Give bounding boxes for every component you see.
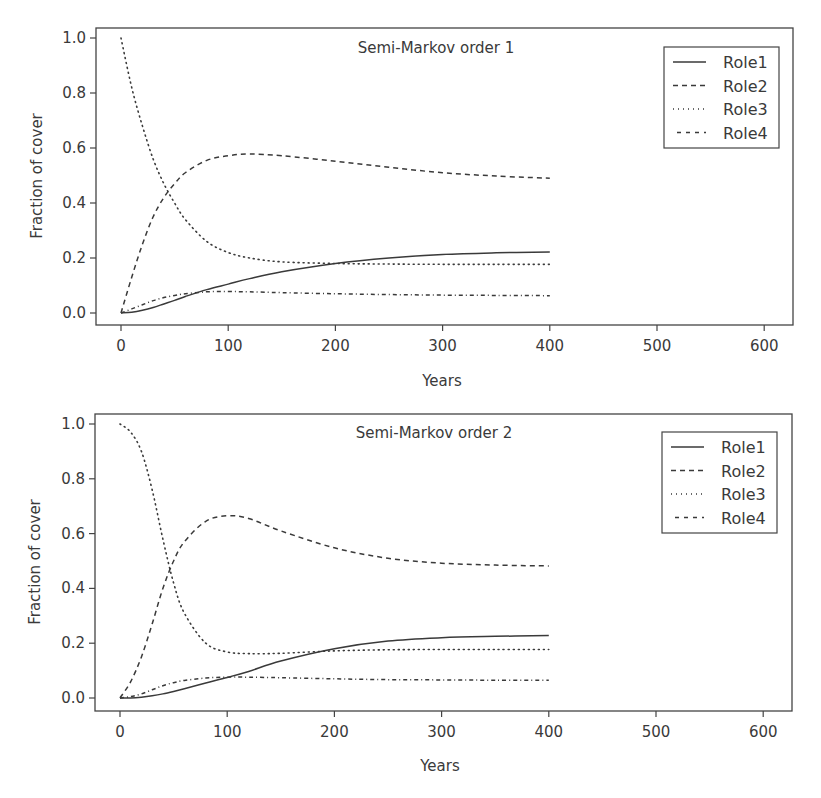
y-tick-label: 0.0 xyxy=(61,689,85,707)
series-line-role4 xyxy=(120,677,549,698)
y-axis: 0.00.20.40.60.81.0 xyxy=(61,415,95,707)
plot-lines xyxy=(121,38,550,313)
chart-panel-order-2: 0.00.20.40.60.81.0 0100200300400500600 S… xyxy=(0,386,821,776)
plot-order-1: 0.00.20.40.60.81.0 0100200300400500600 S… xyxy=(0,0,821,390)
x-axis: 0100200300400500600 xyxy=(116,325,778,355)
x-tick-label: 600 xyxy=(750,337,779,355)
y-tick-label: 0.2 xyxy=(62,249,86,267)
x-tick-label: 100 xyxy=(214,337,243,355)
series-line-role2 xyxy=(121,154,550,313)
legend-label-role3: Role3 xyxy=(723,100,768,119)
series-line-role4 xyxy=(121,292,550,313)
x-tick-label: 0 xyxy=(116,337,126,355)
plot-lines xyxy=(120,424,549,698)
x-tick-label: 200 xyxy=(320,723,349,741)
x-tick-label: 400 xyxy=(534,723,563,741)
x-axis: 0100200300400500600 xyxy=(115,711,777,741)
y-tick-label: 0.8 xyxy=(62,84,86,102)
y-tick-label: 0.0 xyxy=(62,304,86,322)
series-line-role3 xyxy=(121,38,550,264)
plot-title: Semi-Markov order 1 xyxy=(358,39,515,57)
y-axis: 0.00.20.40.60.81.0 xyxy=(62,29,96,322)
y-tick-label: 0.2 xyxy=(61,634,85,652)
x-tick-label: 600 xyxy=(749,723,778,741)
y-tick-label: 0.4 xyxy=(62,194,86,212)
y-axis-label: Fraction of cover xyxy=(28,112,46,238)
series-line-role1 xyxy=(121,252,550,313)
y-axis-label: Fraction of cover xyxy=(26,498,44,624)
legend-label-role3: Role3 xyxy=(721,485,766,504)
series-line-role2 xyxy=(120,516,549,698)
legend-label-role1: Role1 xyxy=(723,53,768,72)
y-tick-label: 0.6 xyxy=(61,525,85,543)
series-line-role1 xyxy=(120,636,549,699)
chart-panel-order-1: 0.00.20.40.60.81.0 0100200300400500600 S… xyxy=(0,0,821,390)
x-tick-label: 300 xyxy=(428,337,457,355)
x-tick-label: 400 xyxy=(535,337,564,355)
y-tick-label: 0.6 xyxy=(62,139,86,157)
x-tick-label: 0 xyxy=(115,723,125,741)
x-tick-label: 500 xyxy=(643,337,672,355)
plot-order-2: 0.00.20.40.60.81.0 0100200300400500600 S… xyxy=(0,386,821,776)
figure-caption-clipped xyxy=(0,792,821,798)
series-line-role3 xyxy=(120,424,549,654)
x-axis-label: Years xyxy=(419,757,460,775)
y-tick-label: 0.4 xyxy=(61,579,85,597)
y-tick-label: 0.8 xyxy=(61,470,85,488)
legend-label-role2: Role2 xyxy=(721,462,766,481)
x-tick-label: 200 xyxy=(321,337,350,355)
y-tick-label: 1.0 xyxy=(62,29,86,47)
x-tick-label: 500 xyxy=(642,723,671,741)
legend: Role1Role2Role3Role4 xyxy=(662,432,777,533)
y-tick-label: 1.0 xyxy=(61,415,85,433)
legend-label-role2: Role2 xyxy=(723,77,768,96)
legend-label-role4: Role4 xyxy=(723,124,768,143)
legend-label-role1: Role1 xyxy=(721,438,766,457)
x-tick-label: 300 xyxy=(427,723,456,741)
legend: Role1Role2Role3Role4 xyxy=(664,47,779,148)
legend-label-role4: Role4 xyxy=(721,509,766,528)
x-tick-label: 100 xyxy=(213,723,242,741)
plot-title: Semi-Markov order 2 xyxy=(356,424,513,442)
